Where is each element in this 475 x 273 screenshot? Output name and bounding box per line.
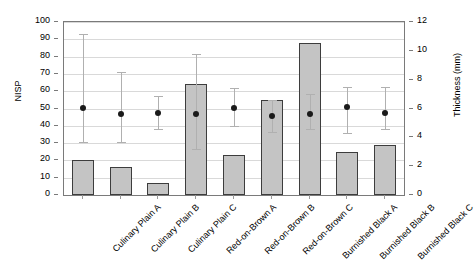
thickness-marker xyxy=(307,111,313,117)
thickness-marker xyxy=(118,111,124,117)
thickness-marker xyxy=(382,110,388,116)
y-tick-label-right: 0 xyxy=(417,189,422,198)
y-tick-mark-left xyxy=(54,159,58,160)
x-tick-mark xyxy=(384,195,385,199)
x-tick-mark xyxy=(271,195,272,199)
error-cap-upper xyxy=(343,87,352,88)
y-tick-label-right: 12 xyxy=(417,16,427,25)
error-bar xyxy=(121,72,122,141)
y-tick-label-right: 4 xyxy=(417,131,422,140)
y-tick-mark-left xyxy=(54,73,58,74)
bar xyxy=(374,145,396,195)
x-tick-mark xyxy=(195,195,196,199)
y-axis-right-ticks: 024681012 xyxy=(409,21,439,196)
x-tick-mark xyxy=(346,195,347,199)
error-cap-lower xyxy=(230,126,239,127)
y-tick-mark-left xyxy=(54,177,58,178)
series-layer xyxy=(64,22,404,195)
y-tick-mark-right xyxy=(409,50,413,51)
y-tick-label-right: 10 xyxy=(417,45,427,54)
y-tick-label-left: 70 xyxy=(40,68,50,77)
y-tick-mark-left xyxy=(54,194,58,195)
error-cap-upper xyxy=(79,34,88,35)
y-tick-mark-left xyxy=(54,108,58,109)
y-tick-label-left: 80 xyxy=(40,51,50,60)
error-cap-lower xyxy=(268,132,277,133)
error-cap-lower xyxy=(192,149,201,150)
error-bar xyxy=(196,54,197,149)
y-axis-left-ticks: 0102030405060708090100 xyxy=(0,21,58,196)
x-tick-mark xyxy=(233,195,234,199)
error-bar xyxy=(385,87,386,129)
bar xyxy=(72,160,94,195)
x-tick-mark xyxy=(157,195,158,199)
plot-area xyxy=(63,21,405,196)
y-tick-mark-left xyxy=(54,56,58,57)
y-tick-label-right: 8 xyxy=(417,74,422,83)
y-tick-label-left: 40 xyxy=(40,120,50,129)
y-tick-mark-left xyxy=(54,125,58,126)
y-tick-mark-right xyxy=(409,136,413,137)
y-tick-label-left: 10 xyxy=(40,172,50,181)
error-cap-lower xyxy=(79,142,88,143)
y-tick-mark-right xyxy=(409,108,413,109)
error-cap-upper xyxy=(306,94,315,95)
x-tick-mark xyxy=(120,195,121,199)
thickness-marker xyxy=(80,105,86,111)
thickness-marker xyxy=(155,110,161,116)
error-cap-lower xyxy=(154,129,163,130)
y-tick-label-left: 30 xyxy=(40,137,50,146)
x-tick-mark xyxy=(82,195,83,199)
y-tick-label-left: 20 xyxy=(40,154,50,163)
error-cap-upper xyxy=(381,87,390,88)
error-cap-lower xyxy=(381,129,390,130)
thickness-marker xyxy=(231,105,237,111)
y-tick-label-right: 6 xyxy=(417,103,422,112)
y-tick-mark-left xyxy=(54,21,58,22)
error-cap-lower xyxy=(343,133,352,134)
y-tick-label-left: 90 xyxy=(40,33,50,42)
y-tick-mark-left xyxy=(54,38,58,39)
y-tick-mark-left xyxy=(54,142,58,143)
error-cap-lower xyxy=(306,129,315,130)
thickness-marker xyxy=(269,113,275,119)
y-tick-label-left: 0 xyxy=(45,189,50,198)
error-cap-upper xyxy=(154,96,163,97)
error-cap-upper xyxy=(230,88,239,89)
thickness-marker xyxy=(344,104,350,110)
y-tick-label-left: 60 xyxy=(40,85,50,94)
bar xyxy=(336,152,358,195)
error-cap-upper xyxy=(117,72,126,73)
y-tick-mark-right xyxy=(409,165,413,166)
y-tick-label-right: 2 xyxy=(417,160,422,169)
thickness-marker xyxy=(193,111,199,117)
y-tick-mark-left xyxy=(54,90,58,91)
y-tick-label-left: 100 xyxy=(35,16,50,25)
error-bar xyxy=(83,34,84,142)
y-tick-mark-right xyxy=(409,21,413,22)
y-axis-title-right: Thickness (mm) xyxy=(452,45,462,125)
bar xyxy=(147,183,169,195)
error-cap-upper xyxy=(268,100,277,101)
bar xyxy=(110,167,132,195)
y-tick-label-left: 50 xyxy=(40,103,50,112)
error-cap-upper xyxy=(192,54,201,55)
error-cap-lower xyxy=(117,142,126,143)
x-tick-mark xyxy=(309,195,310,199)
y-tick-mark-right xyxy=(409,79,413,80)
y-tick-mark-right xyxy=(409,194,413,195)
bar xyxy=(223,155,245,195)
